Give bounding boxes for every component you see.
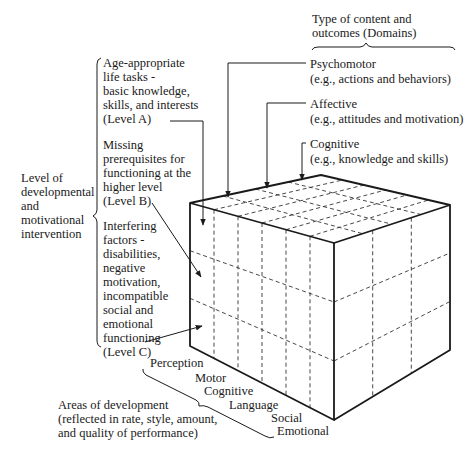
right-face-grid bbox=[334, 218, 450, 397]
cognitive-arrow bbox=[302, 143, 306, 180]
right-grid-line bbox=[334, 302, 450, 362]
level-b-arrow bbox=[152, 203, 201, 277]
affective-arrow bbox=[267, 103, 306, 188]
left-face-grid bbox=[190, 210, 334, 408]
braces bbox=[93, 43, 455, 438]
right-grid-line bbox=[334, 253, 450, 302]
levels-brace bbox=[93, 58, 101, 347]
domains-brace bbox=[312, 43, 455, 50]
level-arrows bbox=[145, 121, 203, 342]
top-face-grid bbox=[214, 180, 429, 236]
domain-arrows bbox=[228, 63, 306, 197]
level-c-arrow bbox=[145, 326, 202, 342]
cube-diagram bbox=[0, 0, 473, 456]
level-a-arrow bbox=[170, 121, 203, 225]
